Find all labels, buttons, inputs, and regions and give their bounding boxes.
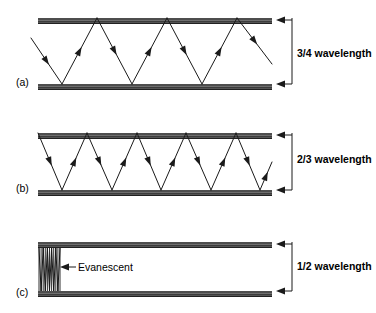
panel-c-dimension-label: 1/2 wavelength: [297, 260, 372, 272]
panel-c-top-wall: [38, 242, 272, 248]
panel-b-dimension-label: 2/3 wavelength: [297, 153, 372, 165]
panel-a-label: (a): [16, 76, 29, 88]
panel-c-label: (c): [16, 286, 28, 298]
panel-a-bottom-wall: [38, 84, 272, 90]
figure-root: 3/4 wavelength (a) 2/3 wavelength (b): [0, 0, 376, 313]
panel-c-bottom-wall: [38, 291, 272, 297]
waveguide-diagram: 3/4 wavelength (a) 2/3 wavelength (b): [0, 0, 376, 313]
evanescent-label: Evanescent: [78, 261, 133, 273]
panel-b-bottom-wall: [38, 190, 272, 196]
panel-a-dimension-label: 3/4 wavelength: [297, 47, 372, 59]
panel-b-label: (b): [16, 182, 29, 194]
